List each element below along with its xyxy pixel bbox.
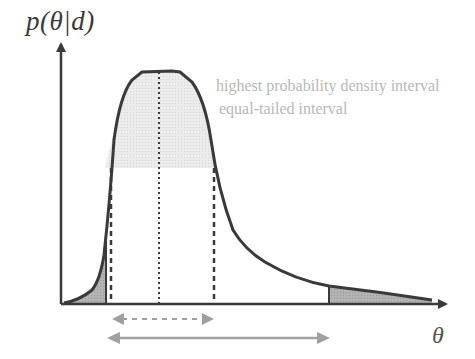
legend-equal-tailed: equal-tailed interval (219, 100, 347, 118)
x-axis-label: θ (432, 322, 444, 349)
equal-tailed-interval-arrow (107, 332, 330, 344)
legend-hpd: highest probability density interval (216, 77, 440, 95)
hpd-interval-arrow (112, 313, 214, 325)
y-axis-label: p(θ|d) (26, 6, 95, 37)
hpd-region (105, 71, 216, 168)
posterior-diagram (0, 0, 475, 359)
